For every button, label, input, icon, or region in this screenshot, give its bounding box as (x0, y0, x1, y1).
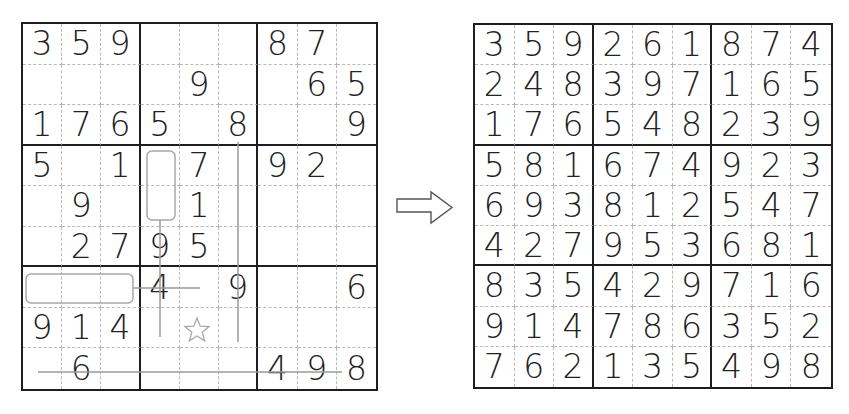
puzzle-cell-r2c8: 6 (298, 65, 337, 106)
solution-cell-r3c3: 6 (554, 105, 594, 145)
puzzle-cell-r5c6[interactable] (219, 186, 258, 227)
puzzle-cell-r6c6[interactable] (219, 227, 258, 268)
puzzle-cell-r5c8[interactable] (298, 186, 337, 227)
puzzle-cell-r8c5[interactable] (180, 308, 219, 349)
puzzle-cell-r6c7[interactable] (258, 227, 297, 268)
puzzle-cell-r7c5[interactable] (180, 267, 219, 308)
puzzle-cell-r9c3[interactable] (101, 348, 140, 389)
solution-cell-r4c7: 9 (712, 146, 752, 186)
solution-cell-r3c4: 5 (594, 105, 634, 145)
puzzle-cell-r2c6[interactable] (219, 65, 258, 106)
puzzle-cell-r1c4[interactable] (141, 24, 180, 65)
solution-cell-r6c9: 1 (791, 226, 831, 266)
puzzle-cell-r7c1[interactable] (23, 267, 62, 308)
solution-cell-r2c3: 8 (554, 65, 594, 105)
puzzle-cell-r8c9[interactable] (337, 308, 376, 349)
puzzle-cell-r9c1[interactable] (23, 348, 62, 389)
puzzle-cell-r7c7[interactable] (258, 267, 297, 308)
puzzle-cell-r4c4[interactable] (141, 146, 180, 187)
solution-cell-r1c6: 1 (673, 25, 713, 65)
solution-cell-r1c8: 7 (752, 25, 792, 65)
puzzle-cell-r6c3: 7 (101, 227, 140, 268)
puzzle-cell-r9c6[interactable] (219, 348, 258, 389)
puzzle-cell-r7c2[interactable] (62, 267, 101, 308)
solution-cell-r3c6: 8 (673, 105, 713, 145)
puzzle-cell-r1c9[interactable] (337, 24, 376, 65)
puzzle-cell-r2c3[interactable] (101, 65, 140, 106)
solution-cell-r6c1: 4 (475, 226, 515, 266)
puzzle-cell-r4c8: 2 (298, 146, 337, 187)
puzzle-cell-r6c9[interactable] (337, 227, 376, 268)
solution-cell-r9c9: 8 (791, 347, 831, 387)
solution-cell-r2c2: 4 (515, 65, 555, 105)
solution-cell-r7c9: 6 (791, 266, 831, 306)
puzzle-cell-r3c9: 9 (337, 105, 376, 146)
solution-cell-r3c5: 4 (633, 105, 673, 145)
puzzle-cell-r7c4: 4 (141, 267, 180, 308)
puzzle-cell-r7c3[interactable] (101, 267, 140, 308)
solution-cell-r8c6: 6 (673, 307, 713, 347)
puzzle-cell-r3c5[interactable] (180, 105, 219, 146)
solution-cell-r1c5: 6 (633, 25, 673, 65)
puzzle-cell-r1c1: 3 (23, 24, 62, 65)
solution-cell-r4c2: 8 (515, 146, 555, 186)
puzzle-cell-r4c2[interactable] (62, 146, 101, 187)
puzzle-cell-r6c8[interactable] (298, 227, 337, 268)
puzzle-cell-r2c5: 9 (180, 65, 219, 106)
puzzle-cell-r8c3: 4 (101, 308, 140, 349)
puzzle-cell-r4c9[interactable] (337, 146, 376, 187)
puzzle-cell-r5c7[interactable] (258, 186, 297, 227)
puzzle-cell-r1c6[interactable] (219, 24, 258, 65)
solution-cell-r9c7: 4 (712, 347, 752, 387)
puzzle-cell-r3c8[interactable] (298, 105, 337, 146)
solution-cell-r6c4: 9 (594, 226, 634, 266)
solution-cell-r5c9: 7 (791, 186, 831, 226)
puzzle-grid: 35987965176589517929127954969146498 (21, 22, 378, 391)
puzzle-cell-r8c6[interactable] (219, 308, 258, 349)
puzzle-cell-r6c1[interactable] (23, 227, 62, 268)
solution-cell-r8c7: 3 (712, 307, 752, 347)
puzzle-cell-r5c9[interactable] (337, 186, 376, 227)
solution-cell-r5c1: 6 (475, 186, 515, 226)
solution-cell-r2c4: 3 (594, 65, 634, 105)
solution-cell-r9c8: 9 (752, 347, 792, 387)
puzzle-cell-r8c7[interactable] (258, 308, 297, 349)
solution-cell-r6c3: 7 (554, 226, 594, 266)
puzzle-cell-r8c4[interactable] (141, 308, 180, 349)
puzzle-cell-r9c5[interactable] (180, 348, 219, 389)
puzzle-cell-r2c1[interactable] (23, 65, 62, 106)
solution-cell-r3c1: 1 (475, 105, 515, 145)
puzzle-cell-r5c4[interactable] (141, 186, 180, 227)
puzzle-cell-r6c4: 9 (141, 227, 180, 268)
puzzle-cell-r9c8: 9 (298, 348, 337, 389)
puzzle-cell-r7c8[interactable] (298, 267, 337, 308)
puzzle-cell-r7c6: 9 (219, 267, 258, 308)
puzzle-cell-r2c9: 5 (337, 65, 376, 106)
puzzle-cell-r1c5[interactable] (180, 24, 219, 65)
puzzle-cell-r4c5: 7 (180, 146, 219, 187)
solution-cell-r8c1: 9 (475, 307, 515, 347)
solution-cell-r2c7: 1 (712, 65, 752, 105)
puzzle-cell-r1c3: 9 (101, 24, 140, 65)
solution-cell-r1c4: 2 (594, 25, 634, 65)
solution-cell-r6c6: 3 (673, 226, 713, 266)
puzzle-cell-r2c7[interactable] (258, 65, 297, 106)
solution-cell-r3c8: 3 (752, 105, 792, 145)
solution-cell-r1c1: 3 (475, 25, 515, 65)
puzzle-cell-r3c4: 5 (141, 105, 180, 146)
puzzle-cell-r5c1[interactable] (23, 186, 62, 227)
puzzle-cell-r4c6[interactable] (219, 146, 258, 187)
puzzle-cell-r7c9: 6 (337, 267, 376, 308)
solution-cell-r5c7: 5 (712, 186, 752, 226)
solution-cell-r8c4: 7 (594, 307, 634, 347)
puzzle-cell-r9c4[interactable] (141, 348, 180, 389)
solution-cell-r2c6: 7 (673, 65, 713, 105)
puzzle-cell-r5c3[interactable] (101, 186, 140, 227)
solution-grid: 3592618742483971651765482395816749236938… (473, 23, 833, 389)
solution-cell-r3c9: 9 (791, 105, 831, 145)
solution-cell-r8c8: 5 (752, 307, 792, 347)
puzzle-cell-r3c7[interactable] (258, 105, 297, 146)
puzzle-cell-r2c4[interactable] (141, 65, 180, 106)
puzzle-cell-r8c8[interactable] (298, 308, 337, 349)
puzzle-cell-r2c2[interactable] (62, 65, 101, 106)
